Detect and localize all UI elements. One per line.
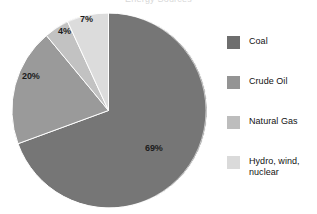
legend-item-coal: Coal [227, 36, 268, 49]
legend-label-natural-gas: Natural Gas [249, 116, 298, 127]
chart-title-text: Energy Sources [125, 0, 192, 4]
chart-title-cropped: Energy Sources [0, 0, 317, 5]
pie-label-coal: 69% [145, 143, 163, 153]
legend-item-natural-gas: Natural Gas [227, 116, 298, 129]
legend-swatch-crude-oil [227, 76, 240, 89]
legend-swatch-coal [227, 36, 240, 49]
legend-swatch-natural-gas [227, 116, 240, 129]
legend-item-crude-oil: Crude Oil [227, 76, 287, 89]
pie-label-natural-gas: 4% [58, 26, 71, 36]
chart-page: Energy Sources 69% 20% 4% 7% Coal Crude … [0, 0, 317, 214]
legend-item-hydro-wind-nuclear: Hydro, wind, nuclear [227, 156, 300, 178]
legend-label-crude-oil: Crude Oil [249, 76, 287, 87]
pie-label-hydro-wind-nuclear: 7% [80, 14, 93, 24]
pie-chart-svg [10, 12, 207, 209]
pie-label-crude-oil: 20% [22, 71, 40, 81]
legend-label-coal: Coal [249, 36, 268, 47]
pie-chart [10, 12, 207, 209]
legend-swatch-hydro-wind-nuclear [227, 156, 240, 169]
legend-label-hydro-wind-nuclear: Hydro, wind, nuclear [249, 156, 300, 178]
